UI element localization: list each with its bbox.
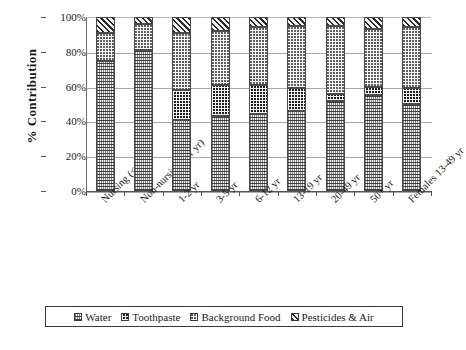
x-tick-mark — [316, 191, 317, 196]
x-tick-mark — [201, 191, 202, 196]
chart-legend: WaterToothpasteBackground FoodPesticides… — [45, 306, 403, 327]
y-tick-label: 100% — [46, 12, 86, 23]
legend-swatch-icon — [190, 313, 198, 321]
bar-segment[interactable] — [364, 87, 383, 96]
bar-segment[interactable] — [249, 27, 268, 84]
y-tick-mark — [41, 191, 46, 192]
bar-stack[interactable] — [402, 17, 421, 191]
legend-swatch-icon — [291, 313, 299, 321]
x-tick-mark — [86, 191, 87, 196]
bar-segment[interactable] — [326, 17, 345, 26]
bar-segment[interactable] — [96, 17, 115, 33]
bar-stack[interactable] — [211, 17, 230, 191]
bar-segment[interactable] — [96, 61, 115, 192]
bar-stack[interactable] — [172, 17, 191, 191]
bar-segment[interactable] — [402, 27, 421, 88]
bar-segment[interactable] — [326, 101, 345, 191]
y-axis-ticks: 100%80%60%40%20%0% — [40, 0, 86, 350]
bar-segment[interactable] — [172, 33, 191, 90]
bar-segment[interactable] — [172, 90, 191, 120]
bar-segment[interactable] — [287, 26, 306, 89]
bar-stack[interactable] — [364, 17, 383, 191]
legend-label: Water — [85, 311, 111, 323]
bar-segment[interactable] — [96, 33, 115, 61]
x-tick-mark — [239, 191, 240, 196]
bar-segment[interactable] — [364, 17, 383, 29]
bar-segment[interactable] — [172, 17, 191, 33]
bar-stack[interactable] — [96, 17, 115, 191]
bar-segment[interactable] — [402, 104, 421, 191]
bar-segment[interactable] — [249, 17, 268, 27]
bar-segment[interactable] — [134, 24, 153, 50]
bar-segment[interactable] — [134, 50, 153, 191]
bar-segment[interactable] — [402, 88, 421, 104]
bar-segment[interactable] — [211, 17, 230, 31]
bar-segment[interactable] — [211, 31, 230, 85]
y-tick-label: 80% — [46, 47, 86, 58]
legend-label: Pesticides & Air — [302, 311, 374, 323]
bar-stack[interactable] — [134, 17, 153, 191]
bar-segment[interactable] — [172, 120, 191, 191]
y-tick-label: 20% — [46, 151, 86, 162]
legend-swatch-icon — [74, 313, 82, 321]
x-tick-mark — [163, 191, 164, 196]
bar-segment[interactable] — [364, 29, 383, 86]
bar-stack[interactable] — [287, 17, 306, 191]
y-tick-mark — [41, 52, 46, 53]
x-tick-mark — [431, 191, 432, 196]
legend-item[interactable]: Background Food — [190, 311, 280, 323]
y-tick-mark — [41, 87, 46, 88]
y-tick-mark — [41, 156, 46, 157]
legend-swatch-icon — [121, 313, 129, 321]
bar-segment[interactable] — [402, 17, 421, 27]
legend-item[interactable]: Toothpaste — [121, 311, 180, 323]
x-tick-mark — [278, 191, 279, 196]
bar-segment[interactable] — [287, 111, 306, 191]
bar-stack[interactable] — [326, 17, 345, 191]
x-tick-mark — [393, 191, 394, 196]
bar-segment[interactable] — [211, 116, 230, 191]
bar-stack[interactable] — [249, 17, 268, 191]
bar-segment[interactable] — [326, 26, 345, 94]
legend-label: Toothpaste — [132, 311, 180, 323]
x-tick-mark — [354, 191, 355, 196]
y-tick-mark — [41, 17, 46, 18]
legend-label: Background Food — [201, 311, 280, 323]
bar-segment[interactable] — [364, 95, 383, 191]
legend-item[interactable]: Water — [74, 311, 111, 323]
legend-item[interactable]: Pesticides & Air — [291, 311, 374, 323]
bar-segment[interactable] — [211, 85, 230, 116]
y-axis-title: % Contribution — [24, 21, 40, 171]
y-tick-label: 0% — [46, 186, 86, 197]
y-tick-label: 40% — [46, 116, 86, 127]
bar-segment[interactable] — [249, 85, 268, 115]
y-tick-mark — [41, 121, 46, 122]
bar-segment[interactable] — [134, 17, 153, 24]
bar-segment[interactable] — [287, 88, 306, 111]
bar-segment[interactable] — [326, 94, 345, 101]
bar-segment[interactable] — [287, 17, 306, 26]
bar-segment[interactable] — [249, 114, 268, 191]
x-tick-mark — [124, 191, 125, 196]
y-tick-label: 60% — [46, 82, 86, 93]
